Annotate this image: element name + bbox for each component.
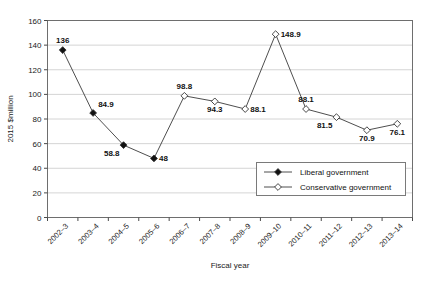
legend-entry-label: Liberal government xyxy=(300,168,369,177)
y-tick-label: 100 xyxy=(28,90,42,99)
y-tick-label: 120 xyxy=(28,66,42,75)
data-point-label: 136 xyxy=(56,36,70,45)
chart-container: 020406080100120140160 2002–32003–42004–5… xyxy=(0,0,429,282)
line-chart: 020406080100120140160 2002–32003–42004–5… xyxy=(0,0,429,282)
data-point-label: 84.9 xyxy=(98,100,114,109)
legend-entry-label: Conservative government xyxy=(300,183,392,192)
y-tick-label: 40 xyxy=(33,164,42,173)
y-tick-label: 60 xyxy=(33,140,42,149)
data-point-label: 88.1 xyxy=(250,105,266,114)
data-point-label: 148.9 xyxy=(281,30,302,39)
data-point-label: 81.5 xyxy=(317,121,333,130)
data-point-label: 58.8 xyxy=(104,149,120,158)
data-point-label: 76.1 xyxy=(390,128,406,137)
data-point-label: 48 xyxy=(159,154,168,163)
y-tick-label: 140 xyxy=(28,41,42,50)
y-tick-label: 0 xyxy=(37,214,42,223)
x-axis-title: Fiscal year xyxy=(211,261,250,270)
data-point-label: 94.3 xyxy=(207,105,223,114)
y-tick-label: 20 xyxy=(33,189,42,198)
chart-legend: Liberal governmentConservative governmen… xyxy=(257,163,406,196)
y-tick-label: 160 xyxy=(28,17,42,26)
data-point-label: 98.8 xyxy=(177,82,193,91)
data-point-label: 88.1 xyxy=(298,95,314,104)
y-axis-title: 2015 $million xyxy=(6,95,15,142)
data-point-label: 70.9 xyxy=(359,134,375,143)
y-tick-label: 80 xyxy=(33,115,42,124)
